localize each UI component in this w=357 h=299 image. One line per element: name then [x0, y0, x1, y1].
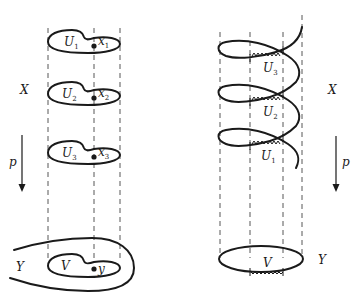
base-space-y-outline: [10, 238, 134, 291]
space-label-x: X: [19, 83, 29, 97]
space-label-y: Y: [16, 260, 25, 274]
label-u1-helix: U1: [261, 149, 276, 165]
label-x3: x3: [98, 145, 109, 161]
helix-covering-curve: [219, 27, 303, 168]
map-label-p-right: p: [342, 155, 350, 169]
label-v-base: V: [263, 256, 273, 270]
label-u2-helix: U2: [263, 105, 278, 121]
base-circle-y: [219, 246, 303, 272]
label-x1: x1: [98, 34, 109, 50]
point-x1: [91, 43, 96, 48]
hatch-u3: [250, 46, 283, 62]
label-y-point: y: [97, 262, 105, 276]
arrow-down-icon: [19, 184, 26, 192]
label-u2: U2: [62, 87, 77, 103]
covering-space-diagram: X p Y U1 x1 U2 x2 U3 x3 V y: [0, 0, 357, 299]
space-label-y-right: Y: [318, 253, 327, 267]
hatch-u2: [250, 90, 283, 106]
left-panel: X p Y U1 x1 U2 x2 U3 x3 V y: [9, 28, 134, 291]
point-y: [91, 266, 96, 271]
hatch-u1: [250, 134, 283, 150]
right-panel: X p Y U3 U2 U1 V: [219, 15, 351, 276]
point-x2: [91, 95, 96, 100]
point-x3: [91, 154, 96, 159]
base-set-v: [48, 254, 120, 277]
map-label-p: p: [9, 155, 17, 169]
label-u1: U1: [64, 35, 79, 51]
label-u3: U3: [62, 146, 77, 162]
label-x2: x2: [98, 86, 109, 102]
arrow-down-icon: [333, 184, 340, 192]
space-label-x-right: X: [327, 83, 337, 97]
label-v: V: [61, 259, 71, 273]
diagram-svg: X p Y U1 x1 U2 x2 U3 x3 V y: [0, 0, 357, 299]
label-u3-helix: U3: [263, 61, 278, 77]
